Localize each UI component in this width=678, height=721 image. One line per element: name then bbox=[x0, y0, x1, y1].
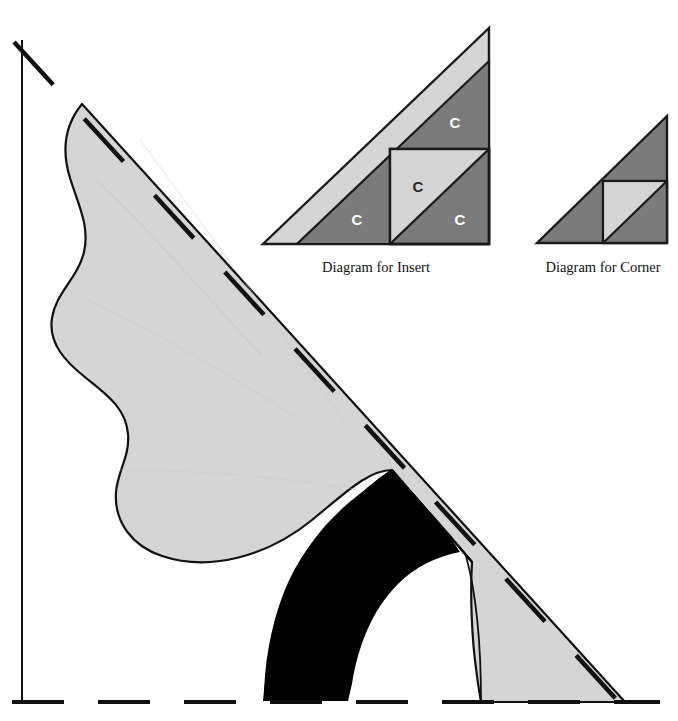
insert-label-c-bottom-left: C bbox=[352, 211, 363, 228]
insert-label-c-bottom-right: C bbox=[455, 211, 466, 228]
insert-diagram-caption: Diagram for Insert bbox=[322, 259, 430, 275]
pattern-sheet: C C C C Diagram for Insert Diagram for C… bbox=[0, 0, 678, 721]
insert-diagram-group: C C C C Diagram for Insert bbox=[263, 28, 489, 275]
insert-label-c-center: C bbox=[413, 178, 424, 195]
pattern-artwork: C C C C Diagram for Insert Diagram for C… bbox=[0, 0, 678, 721]
main-pattern-group bbox=[12, 40, 660, 712]
corner-diagram-group: Diagram for Corner bbox=[537, 116, 667, 275]
corner-diagram-caption: Diagram for Corner bbox=[545, 259, 660, 275]
insert-label-c-top-right: C bbox=[450, 114, 461, 131]
